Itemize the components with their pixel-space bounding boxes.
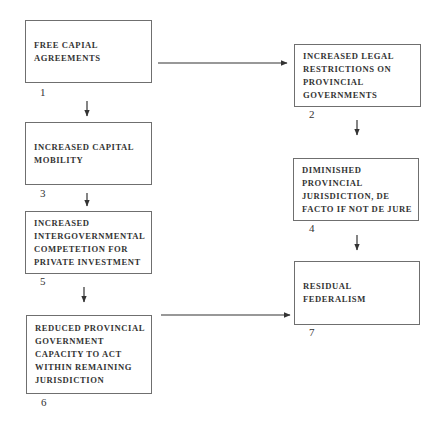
node-7-residual-federalism: RESIDUAL FEDERALISM [294,261,420,325]
node-2-label: INCREASED LEGAL RESTRICTIONS ON PROVINCI… [295,50,398,102]
node-1-label: FREE CAPIAL AGREEMENTS [26,39,105,65]
node-3-number: 3 [40,187,46,199]
node-7-number: 7 [309,326,315,338]
node-2-number: 2 [309,108,315,120]
node-5-label: INCREASED INTERGOVERNMENTAL COMPETETION … [26,217,149,269]
node-4-label: DIMINISHED PROVINCIAL JURISDICTION, DE F… [294,164,416,216]
node-5-number: 5 [40,275,46,287]
node-3-label: INCREASED CAPITAL MOBILITY [26,141,138,167]
node-3-increased-capital-mobility: INCREASED CAPITAL MOBILITY [25,122,152,185]
node-6-reduced-provincial-capacity: REDUCED PROVINCIAL GOVERNMENT CAPACITY T… [26,315,152,394]
node-2-increased-legal-restrictions: INCREASED LEGAL RESTRICTIONS ON PROVINCI… [294,44,421,107]
node-4-number: 4 [309,222,315,234]
node-6-label: REDUCED PROVINCIAL GOVERNMENT CAPACITY T… [27,322,149,387]
node-1-number: 1 [40,86,46,98]
node-6-number: 6 [41,396,47,408]
node-1-free-capital-agreements: FREE CAPIAL AGREEMENTS [25,20,152,83]
node-5-intergovernmental-competition: INCREASED INTERGOVERNMENTAL COMPETETION … [25,211,152,274]
node-4-diminished-provincial-jurisdiction: DIMINISHED PROVINCIAL JURISDICTION, DE F… [293,158,419,221]
node-7-label: RESIDUAL FEDERALISM [295,280,419,306]
